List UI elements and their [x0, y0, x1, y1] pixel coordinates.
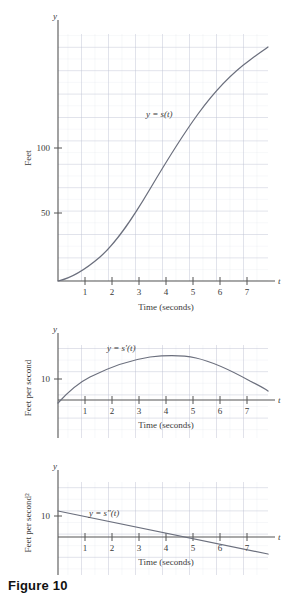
- xlabel-velocity: Time (seconds): [138, 420, 193, 430]
- x-ticklabel-6-velocity: 6: [218, 406, 223, 416]
- x-ticklabel-1: 1: [83, 287, 88, 297]
- figure-10-panel: y t 100 50 1 2 3 4 5 6 7 Time (seconds) …: [0, 0, 297, 601]
- x-axis-symbol-velocity: t: [278, 395, 281, 405]
- x-ticklabel-2-acceleration: 2: [110, 543, 115, 553]
- chart-velocity: y t 10 1 2 3 4 5 6 7 Time (seconds) Feet…: [23, 324, 281, 438]
- curve-label-position: y = s(t): [145, 109, 173, 119]
- x-ticklabel-1-acceleration: 1: [83, 543, 88, 553]
- x-ticklabel-3-acceleration: 3: [137, 543, 142, 553]
- ylabel-velocity: Feet per second: [23, 359, 33, 416]
- chart-position: y t 100 50 1 2 3 4 5 6 7 Time (seconds) …: [23, 11, 281, 312]
- y-axis-symbol-velocity: y: [52, 324, 57, 334]
- x-axis-symbol-acceleration: t: [278, 532, 281, 542]
- y-ticklabel-10-acceleration: 10: [41, 511, 51, 521]
- y-ticklabel-10-velocity: 10: [41, 374, 51, 384]
- chart-acceleration: y t 10 1 2 3 4 5 6 7 Time (seconds) Feet…: [23, 461, 281, 575]
- x-ticklabel-7: 7: [245, 287, 250, 297]
- xlabel-acceleration: Time (seconds): [138, 557, 193, 567]
- x-ticklabel-4-velocity: 4: [164, 406, 169, 416]
- xlabel-position: Time (seconds): [138, 302, 193, 312]
- x-ticklabel-7-acceleration: 7: [245, 543, 250, 553]
- figure-caption: Figure 10: [8, 578, 68, 593]
- three-panel-calculus-figure: y t 100 50 1 2 3 4 5 6 7 Time (seconds) …: [0, 0, 297, 601]
- x-ticklabel-6: 6: [218, 287, 223, 297]
- y-axis-symbol-position: y: [52, 11, 57, 21]
- x-ticklabel-3-velocity: 3: [137, 406, 142, 416]
- y-axis-symbol-acceleration: y: [52, 461, 57, 471]
- x-ticklabel-5-velocity: 5: [191, 406, 196, 416]
- x-ticklabel-2-velocity: 2: [110, 406, 115, 416]
- x-ticklabel-4: 4: [164, 287, 169, 297]
- ylabel-position: Feet: [23, 150, 33, 166]
- y-ticklabel-100: 100: [37, 143, 51, 153]
- x-axis-symbol-position: t: [278, 276, 281, 286]
- x-ticklabel-7-velocity: 7: [245, 406, 250, 416]
- x-ticklabel-6-acceleration: 6: [218, 543, 223, 553]
- x-ticklabel-5-acceleration: 5: [191, 543, 196, 553]
- curve-label-velocity: y = s'(t): [106, 343, 136, 353]
- ylabel-acceleration: Feet per second²: [23, 493, 33, 552]
- x-ticklabel-3: 3: [137, 287, 142, 297]
- x-ticklabel-4-acceleration: 4: [164, 543, 169, 553]
- x-ticklabel-2: 2: [110, 287, 115, 297]
- x-ticklabel-1-velocity: 1: [83, 406, 88, 416]
- x-ticklabel-5: 5: [191, 287, 196, 297]
- curve-label-acceleration: y = s″(t): [88, 508, 119, 518]
- y-ticklabel-50: 50: [41, 208, 51, 218]
